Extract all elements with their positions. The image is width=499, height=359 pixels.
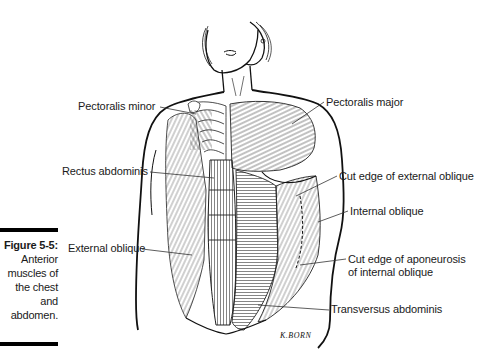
label-pectoralis-minor: Pectoralis minor xyxy=(78,100,155,113)
label-line: Cut edge of aponeurosis xyxy=(348,253,466,266)
head-drawing xyxy=(203,22,272,96)
pectoralis-major-muscle xyxy=(230,101,315,171)
label-external-oblique: External oblique xyxy=(68,242,145,255)
label-transversus-abdominis: Transversus abdominis xyxy=(331,303,442,316)
label-line: of internal oblique xyxy=(348,266,466,279)
label-cut-edge-aponeurosis: Cut edge of aponeurosis of internal obli… xyxy=(348,253,466,279)
label-pectoralis-major: Pectoralis major xyxy=(326,96,403,109)
artist-signature: K.BORN xyxy=(280,331,311,340)
rectus-abdominis-muscle xyxy=(208,160,236,325)
label-rectus-abdominis: Rectus abdominis xyxy=(62,165,148,178)
label-internal-oblique: Internal oblique xyxy=(350,205,424,218)
label-cut-edge-external-oblique: Cut edge of external oblique xyxy=(339,170,474,183)
